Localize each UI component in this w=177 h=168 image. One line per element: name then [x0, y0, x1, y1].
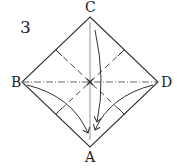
edge-tick: [56, 50, 62, 56]
vertex-label-d: D: [161, 75, 172, 89]
edge-tick: [118, 50, 124, 56]
fold-arrow-d: [95, 85, 153, 130]
step-number: 3: [20, 19, 31, 36]
vertex-label-c: C: [85, 0, 96, 14]
vertex-label-a: A: [85, 150, 95, 164]
edge-tick: [56, 108, 62, 114]
origami-diagram: 3 C B D A: [0, 0, 177, 168]
vertex-label-b: B: [11, 75, 21, 89]
fold-arrow-c: [95, 30, 101, 122]
edge-tick: [118, 108, 124, 114]
